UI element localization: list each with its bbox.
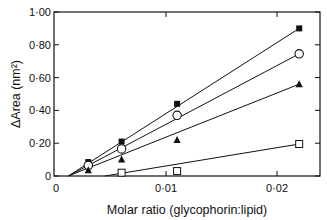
- marker-open-square: [118, 169, 125, 176]
- y-axis-title: ΔArea (nm²): [9, 60, 23, 128]
- y-tick-label: 0·20: [29, 137, 51, 149]
- marker-filled-triangle: [118, 156, 125, 163]
- x-axis-title: Molar ratio (glycophorin:lipid): [107, 203, 267, 217]
- y-tick-label: 0·60: [29, 72, 51, 84]
- chart: 00·200·400·600·801·0000·010·02 Molar rat…: [0, 0, 327, 220]
- fit-line-filled-square: [68, 28, 299, 176]
- data-markers: [84, 25, 303, 176]
- marker-open-square: [296, 141, 303, 148]
- marker-open-square: [174, 168, 181, 175]
- x-tick-label: 0·02: [266, 182, 288, 194]
- marker-open-circle: [295, 50, 303, 58]
- marker-open-circle: [117, 145, 125, 153]
- axis-ticks: [54, 12, 320, 176]
- fit-line-open-circle: [68, 54, 299, 176]
- marker-filled-square: [119, 139, 125, 145]
- y-tick-label: 1·00: [29, 6, 51, 18]
- marker-open-circle: [173, 111, 181, 119]
- x-tick-label: 0·01: [155, 182, 177, 194]
- marker-filled-square: [174, 101, 180, 107]
- y-tick-label: 0: [45, 170, 51, 182]
- fit-line-open-square: [105, 144, 299, 176]
- marker-filled-triangle: [174, 136, 181, 143]
- y-tick-label: 0·40: [29, 104, 51, 116]
- y-tick-label: 0·80: [29, 39, 51, 51]
- x-tick-label: 0: [53, 182, 59, 194]
- fit-line-filled-triangle: [68, 84, 299, 176]
- fit-lines: [68, 28, 299, 176]
- axis-tick-labels: 00·200·400·600·801·0000·010·02: [29, 6, 288, 194]
- marker-filled-triangle: [296, 80, 303, 87]
- marker-filled-square: [296, 25, 302, 31]
- plot-frame: [54, 12, 320, 176]
